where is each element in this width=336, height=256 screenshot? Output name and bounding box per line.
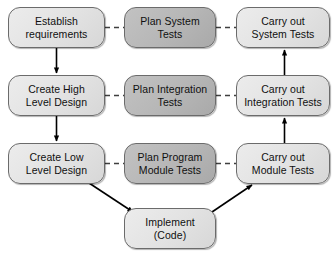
node-label: Carry out Integration Tests bbox=[241, 83, 325, 108]
node-establish-requirements[interactable]: Establish requirements bbox=[8, 7, 105, 48]
edge-low-level-to-implement bbox=[89, 183, 133, 212]
node-label: Create Low Level Design bbox=[23, 151, 90, 176]
node-create-low-level-design[interactable]: Create Low Level Design bbox=[8, 143, 105, 184]
node-label: Establish requirements bbox=[23, 15, 91, 40]
node-plan-program-module-tests[interactable]: Plan Program Module Tests bbox=[124, 143, 216, 184]
node-plan-integration-tests[interactable]: Plan Integration Tests bbox=[124, 75, 216, 116]
node-label: Create High Level Design bbox=[23, 83, 90, 108]
edge-implement-to-module-tests bbox=[212, 185, 252, 212]
node-carry-out-module-tests[interactable]: Carry out Module Tests bbox=[236, 143, 330, 184]
node-create-high-level-design[interactable]: Create High Level Design bbox=[8, 75, 105, 116]
node-label: Plan System Tests bbox=[137, 15, 203, 40]
node-label: Carry out System Tests bbox=[249, 15, 318, 40]
v-model-diagram: Establish requirements Plan System Tests… bbox=[0, 0, 336, 256]
node-plan-system-tests[interactable]: Plan System Tests bbox=[124, 7, 216, 48]
node-label: Plan Program Module Tests bbox=[135, 151, 206, 176]
node-carry-out-system-tests[interactable]: Carry out System Tests bbox=[236, 7, 330, 48]
node-carry-out-integration-tests[interactable]: Carry out Integration Tests bbox=[236, 75, 330, 116]
node-label: Carry out Module Tests bbox=[249, 151, 317, 176]
node-implement-code[interactable]: Implement (Code) bbox=[124, 208, 216, 249]
node-label: Plan Integration Tests bbox=[130, 83, 210, 108]
node-label: Implement (Code) bbox=[142, 216, 197, 241]
